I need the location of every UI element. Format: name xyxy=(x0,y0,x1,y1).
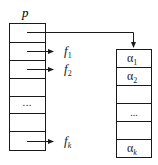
pointer-label-p: p xyxy=(21,5,29,20)
field-label-f2: f2 xyxy=(64,61,72,78)
left-array xyxy=(10,24,46,151)
right-ellipsis: ... xyxy=(130,107,138,118)
cell-alpha-k: αk xyxy=(127,141,137,157)
diagram-canvas: p ... f1 f2 fk α1 α2 ... αk xyxy=(0,0,158,165)
pointer-arrow xyxy=(27,33,134,48)
field-labels: f1 f2 fk xyxy=(64,43,72,150)
cell-alpha-2: α2 xyxy=(127,69,137,85)
field-label-f1: f1 xyxy=(64,43,72,60)
field-label-fk: fk xyxy=(64,133,72,150)
left-ellipsis: ... xyxy=(22,97,32,108)
cell-alpha-1: α1 xyxy=(127,51,137,67)
